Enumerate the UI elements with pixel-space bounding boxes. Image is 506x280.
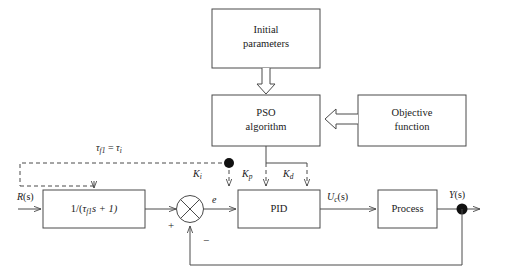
tau-dashed-feedback-line [20,163,229,186]
block-diagram-canvas: Initial parameters PSO algorithm Objecti… [0,0,506,280]
pso-gain-bus-line [266,146,307,163]
block-arrow-initial-to-pso [257,68,275,94]
initial-parameters-block [212,9,320,68]
pid-block [238,190,320,228]
objective-function-block [358,95,466,146]
gain-bus-junction-dot [224,158,234,168]
process-block [378,190,437,228]
diagram-vector-layer [0,0,506,280]
block-arrow-objective-to-pso [325,109,358,129]
filter-block [43,190,145,228]
pso-algorithm-block [212,95,320,146]
